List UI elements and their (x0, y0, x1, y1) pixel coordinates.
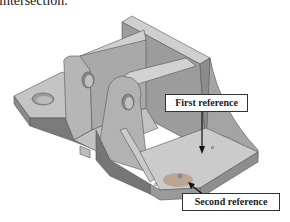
first-marker: o (211, 144, 214, 150)
second-marker: o (154, 181, 157, 187)
first-reference-callout: First reference (165, 94, 248, 112)
second-reference-callout: Second reference (182, 193, 280, 211)
base-notch (80, 146, 90, 158)
